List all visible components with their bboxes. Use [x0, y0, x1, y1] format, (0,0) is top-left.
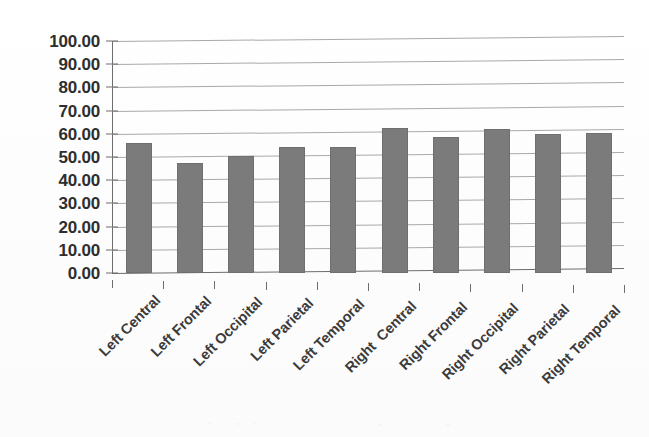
- y-axis-tick-label: 20.00: [8, 218, 100, 235]
- y-axis-tick-label: 10.00: [8, 241, 100, 258]
- bar: [330, 147, 356, 273]
- scan-speckle-artifact: [0, 401, 649, 437]
- y-axis-tick-label: 100.00: [8, 33, 100, 50]
- y-axis-tick-label: 70.00: [8, 102, 100, 119]
- bar: [586, 133, 612, 273]
- bar: [433, 137, 459, 273]
- x-axis-category-labels: Left CentralLeft FrontalLeft OccipitalLe…: [0, 286, 649, 406]
- y-axis-tick-label: 80.00: [8, 79, 100, 96]
- bar: [177, 163, 203, 273]
- y-axis-tick-label: 30.00: [8, 195, 100, 212]
- y-axis-tick-label: 0.00: [8, 265, 100, 282]
- bar: [126, 143, 152, 273]
- bar-chart: 100.0090.0080.0070.0060.0050.0040.0030.0…: [0, 0, 649, 437]
- y-axis-tick-label: 90.00: [8, 56, 100, 73]
- bar: [228, 156, 254, 273]
- y-axis-tick-label: 60.00: [8, 125, 100, 142]
- y-axis-tick-label: 50.00: [8, 149, 100, 166]
- plot-area: [112, 30, 624, 280]
- y-axis-tick-label: 40.00: [8, 172, 100, 189]
- bar: [484, 129, 510, 273]
- bar: [279, 147, 305, 273]
- bar: [382, 128, 408, 273]
- bar-series: [113, 41, 624, 273]
- bar: [535, 134, 561, 273]
